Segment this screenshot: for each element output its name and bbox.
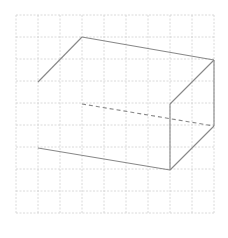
prism-diagram [0,0,228,238]
grid [16,15,214,213]
